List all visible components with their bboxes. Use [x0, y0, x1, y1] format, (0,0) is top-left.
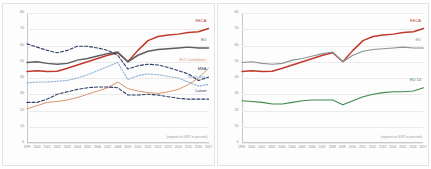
- y-tick-label-right-50: 50: [235, 60, 239, 64]
- x-tick-label-left-1999: 1999: [23, 146, 30, 149]
- x-tick-label-right-2013: 2013: [379, 146, 386, 149]
- y-tick-label-left-10: 10: [20, 125, 24, 129]
- x-tick-label-left-2001: 2001: [44, 146, 51, 149]
- y-tick-label-right-80: 80: [235, 11, 239, 15]
- x-tick-label-right-2010: 2010: [349, 146, 356, 149]
- y-tick-label-left-70: 70: [20, 27, 24, 31]
- y-tick-label-left-30: 30: [20, 92, 24, 96]
- x-tick-label-right-2012: 2012: [369, 146, 376, 149]
- x-tick-label-left-2017: 2017: [205, 146, 212, 149]
- series-line-eeca: [242, 28, 424, 71]
- x-tick-label-right-2017: 2017: [419, 146, 426, 149]
- x-tick-label-left-2010: 2010: [134, 146, 141, 149]
- footnote-left: (exports to GDP in percent): [166, 135, 207, 139]
- x-tick-label-left-2015: 2015: [185, 146, 192, 149]
- x-tick-label-right-2008: 2008: [329, 146, 336, 149]
- x-tick-label-right-2003: 2003: [278, 146, 285, 149]
- y-tick-label-left-40: 40: [20, 76, 24, 80]
- y-tick-label-right-40: 40: [235, 76, 239, 80]
- x-tick-label-right-2011: 2011: [359, 146, 366, 149]
- gridline-left-0: [27, 143, 209, 144]
- x-tick-label-left-2005: 2005: [84, 146, 91, 149]
- x-tick-label-left-2008: 2008: [114, 146, 121, 149]
- series-line-latam: [27, 87, 209, 102]
- series-label-eeca: EECA: [196, 19, 207, 23]
- x-tick-label-right-2007: 2007: [319, 146, 326, 149]
- y-tick-label-left-50: 50: [20, 60, 24, 64]
- gridline-right-0: [242, 143, 424, 144]
- series-label-mea: MEA: [198, 67, 207, 71]
- y-tick-label-left-20: 20: [20, 109, 24, 113]
- y-tick-label-right-30: 30: [235, 92, 239, 96]
- x-tick-label-right-2001: 2001: [258, 146, 265, 149]
- x-tick-label-left-2002: 2002: [54, 146, 61, 149]
- x-tick-label-left-2013: 2013: [165, 146, 172, 149]
- series-line-eeca: [27, 28, 209, 71]
- series-label-eu-candidates: EU Candidates: [180, 58, 207, 62]
- x-tick-label-left-2009: 2009: [124, 146, 131, 149]
- chart-panel-left: 0102030405060708019992000200120022003200…: [2, 3, 215, 166]
- figure-container: 0102030405060708019992000200120022003200…: [0, 0, 431, 169]
- x-tick-label-left-2011: 2011: [145, 146, 152, 149]
- plot-area-left: 0102030405060708019992000200120022003200…: [27, 13, 209, 143]
- series-label-eu-14: EU 14: [410, 78, 421, 82]
- y-tick-label-left-60: 60: [20, 44, 24, 48]
- series-line-eu-14: [242, 88, 424, 105]
- series-line-eu-candidates: [27, 68, 209, 109]
- x-tick-label-right-2016: 2016: [409, 146, 416, 149]
- x-tick-label-right-2006: 2006: [309, 146, 316, 149]
- footnote-right: (exports to GDP in percent): [381, 135, 422, 139]
- x-tick-label-left-2014: 2014: [175, 146, 182, 149]
- x-tick-label-right-2009: 2009: [339, 146, 346, 149]
- chart-panel-right: 0102030405060708019992000200120022003200…: [217, 3, 430, 166]
- x-tick-label-right-2015: 2015: [399, 146, 406, 149]
- y-tick-label-right-60: 60: [235, 44, 239, 48]
- series-label-eu: EU: [415, 38, 421, 42]
- x-tick-label-left-2007: 2007: [104, 146, 111, 149]
- y-tick-label-right-70: 70: [235, 27, 239, 31]
- x-tick-label-left-2000: 2000: [34, 146, 41, 149]
- x-tick-label-right-1999: 1999: [238, 146, 245, 149]
- x-tick-label-left-2012: 2012: [155, 146, 162, 149]
- series-label-eu: EU: [201, 38, 207, 42]
- series-line-eu: [242, 47, 424, 64]
- series-label-latam: Latam: [195, 89, 206, 93]
- x-tick-label-right-2000: 2000: [248, 146, 255, 149]
- x-tick-label-right-2004: 2004: [288, 146, 295, 149]
- x-tick-label-left-2016: 2016: [195, 146, 202, 149]
- series-label-eeca: EECA: [410, 19, 421, 23]
- x-tick-label-right-2014: 2014: [389, 146, 396, 149]
- y-tick-label-right-20: 20: [235, 109, 239, 113]
- series-lines-left: [27, 13, 209, 143]
- series-label-south-asia: South Asia: [187, 75, 206, 79]
- x-tick-label-left-2004: 2004: [74, 146, 81, 149]
- x-tick-label-left-2003: 2003: [64, 146, 71, 149]
- x-tick-label-right-2002: 2002: [268, 146, 275, 149]
- series-lines-right: [242, 13, 424, 143]
- x-tick-label-left-2006: 2006: [94, 146, 101, 149]
- y-tick-label-left-80: 80: [20, 11, 24, 15]
- x-tick-label-right-2005: 2005: [298, 146, 305, 149]
- plot-area-right: 0102030405060708019992000200120022003200…: [242, 13, 424, 143]
- y-tick-label-right-10: 10: [235, 125, 239, 129]
